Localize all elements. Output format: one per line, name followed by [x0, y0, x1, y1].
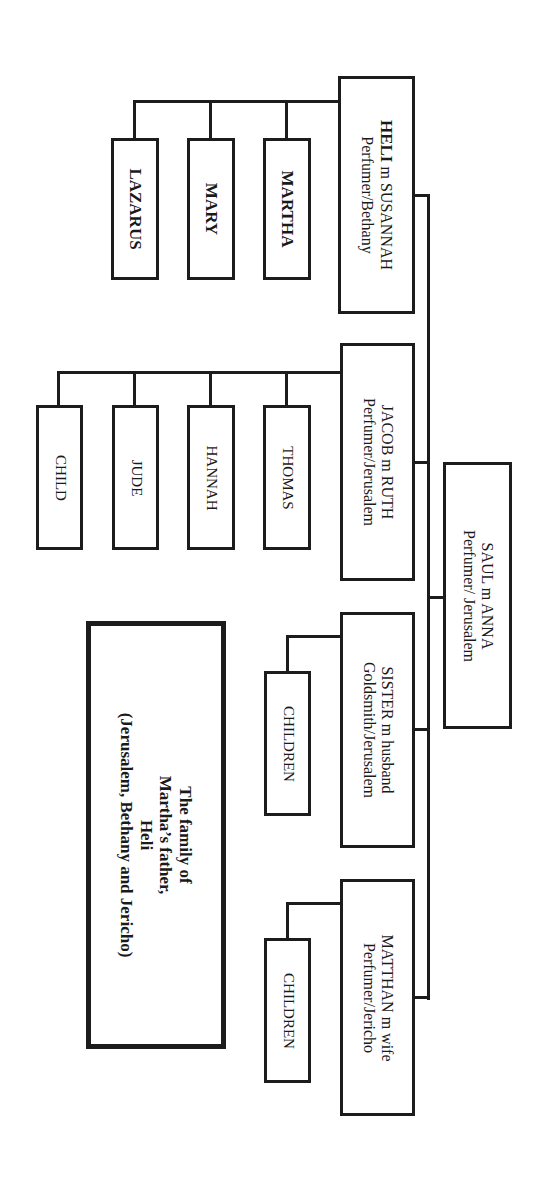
connector-child: [57, 371, 60, 407]
connector-jacob: [413, 461, 430, 464]
node-jacob-name: JACOB m RUTH: [378, 398, 396, 526]
node-thomas: THOMAS: [263, 405, 311, 550]
node-matthan-name: MATTHAN m wife: [378, 934, 396, 1061]
node-sister-children-label: CHILDREN: [279, 706, 296, 782]
node-lazarus: LAZARUS: [111, 138, 159, 280]
node-martha-label: MARTHA: [277, 171, 297, 248]
node-matthan-children: CHILDREN: [264, 938, 311, 1083]
connector-matthan: [413, 996, 430, 999]
connector-mary: [209, 100, 212, 140]
diagram-title-box: The family of Martha’s father, Heli (Jer…: [86, 621, 226, 1049]
connector-martha: [285, 100, 288, 140]
connector-hannah: [209, 371, 212, 407]
node-jude-label: JUDE: [127, 459, 144, 496]
node-mary: MARY: [187, 138, 235, 280]
connector-jude: [133, 371, 136, 407]
node-heli: HELI m SUSANNAH Perfumer/Bethany: [338, 76, 415, 314]
connector-sister: [413, 728, 430, 731]
node-matthan-detail: Perfumer/Jericho: [359, 934, 377, 1061]
node-sister: SISTER m husband Goldsmith/Jerusalem: [340, 612, 415, 848]
node-heli-name-bold: HELI: [376, 120, 395, 163]
connector-heli: [413, 194, 430, 197]
node-sister-name: SISTER m husband: [378, 662, 396, 798]
node-sister-text: SISTER m husband Goldsmith/Jerusalem: [359, 662, 396, 798]
connector-sister-children: [286, 635, 289, 673]
node-child: CHILD: [36, 405, 83, 550]
title-line-1: The family of: [176, 713, 196, 958]
node-matthan-children-label: CHILDREN: [279, 973, 296, 1049]
node-matthan-text: MATTHAN m wife Perfumer/Jericho: [359, 934, 396, 1061]
heli-children-bar: [133, 100, 340, 103]
node-heli-name: HELI m SUSANNAH: [376, 120, 396, 270]
connector-lazarus: [133, 100, 136, 140]
node-heli-detail: Perfumer/Bethany: [358, 120, 376, 270]
node-martha: MARTHA: [263, 138, 311, 280]
node-hannah: HANNAH: [187, 405, 235, 550]
matthan-children-bar: [286, 902, 342, 905]
sister-children-bar: [286, 635, 342, 638]
node-matthan: MATTHAN m wife Perfumer/Jericho: [340, 879, 415, 1116]
node-jacob: JACOB m RUTH Perfumer/Jerusalem: [340, 343, 415, 581]
node-saul-name: SAUL m ANNA: [478, 530, 496, 662]
connector-saul: [427, 596, 444, 599]
node-sister-children: CHILDREN: [264, 671, 311, 816]
node-lazarus-label: LAZARUS: [125, 168, 145, 249]
diagram-title: The family of Martha’s father, Heli (Jer…: [117, 713, 195, 958]
title-line-4: (Jerusalem, Bethany and Jericho): [117, 713, 137, 958]
node-heli-text: HELI m SUSANNAH Perfumer/Bethany: [358, 120, 396, 270]
node-mary-label: MARY: [201, 183, 221, 235]
node-saul-detail: Perfumer/ Jerusalem: [459, 530, 477, 662]
node-jacob-detail: Perfumer/Jerusalem: [359, 398, 377, 526]
title-line-3: Heli: [136, 713, 156, 958]
node-sister-detail: Goldsmith/Jerusalem: [359, 662, 377, 798]
connector-matthan-children: [286, 902, 289, 940]
jacob-children-bar: [57, 371, 340, 374]
node-child-label: CHILD: [51, 455, 68, 501]
node-saul: SAUL m ANNA Perfumer/ Jerusalem: [443, 462, 512, 729]
connector-thomas: [285, 371, 288, 407]
title-line-2: Martha’s father,: [156, 713, 176, 958]
node-hannah-label: HANNAH: [202, 445, 219, 510]
node-jacob-text: JACOB m RUTH Perfumer/Jerusalem: [359, 398, 396, 526]
node-saul-text: SAUL m ANNA Perfumer/ Jerusalem: [459, 530, 496, 662]
node-jude: JUDE: [112, 405, 159, 550]
node-heli-name-rest: m SUSANNAH: [377, 162, 394, 270]
node-thomas-label: THOMAS: [278, 446, 295, 509]
